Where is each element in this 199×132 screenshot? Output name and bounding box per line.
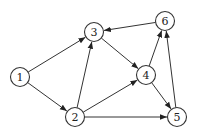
node-5: 5 bbox=[168, 108, 187, 127]
edge-2-to-4 bbox=[83, 80, 137, 112]
directed-graph: 123456 bbox=[0, 0, 199, 132]
node-label: 6 bbox=[162, 15, 169, 28]
node-label: 2 bbox=[72, 111, 79, 124]
node-3: 3 bbox=[85, 23, 104, 42]
edge-4-to-5 bbox=[152, 83, 171, 109]
edge-2-to-3 bbox=[77, 42, 92, 108]
nodes-layer: 123456 bbox=[11, 12, 187, 127]
node-label: 1 bbox=[17, 71, 24, 84]
node-label: 3 bbox=[91, 26, 98, 39]
edge-1-to-2 bbox=[28, 83, 67, 112]
node-label: 5 bbox=[174, 111, 181, 124]
node-4: 4 bbox=[137, 66, 156, 85]
node-6: 6 bbox=[156, 12, 175, 31]
edge-4-to-6 bbox=[149, 30, 162, 66]
edge-3-to-4 bbox=[101, 38, 138, 69]
node-2: 2 bbox=[66, 108, 85, 127]
node-label: 4 bbox=[143, 69, 150, 82]
edge-1-to-3 bbox=[28, 37, 85, 72]
node-1: 1 bbox=[11, 68, 30, 87]
edge-5-to-6 bbox=[166, 31, 176, 108]
edge-6-to-3 bbox=[104, 22, 156, 30]
